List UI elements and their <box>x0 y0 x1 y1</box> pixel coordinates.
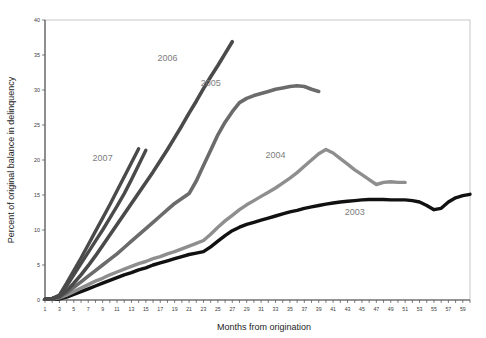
x-tick-label: 35 <box>287 306 293 312</box>
x-tick-label: 47 <box>373 306 379 312</box>
x-tick-label: 25 <box>215 306 221 312</box>
y-axis-title: Percent of original balance in delinquen… <box>6 76 16 243</box>
x-tick-label: 9 <box>101 306 104 312</box>
x-tick-label: 45 <box>359 306 365 312</box>
series-label-2004: 2004 <box>265 150 285 160</box>
x-tick-label: 21 <box>186 306 192 312</box>
series-label-2007: 2007 <box>93 153 113 163</box>
series-label-2006: 2006 <box>157 53 177 63</box>
x-tick-label: 5 <box>72 306 75 312</box>
x-tick-label: 33 <box>273 306 279 312</box>
x-tick-label: 39 <box>316 306 322 312</box>
y-tick-label: 15 <box>34 192 40 198</box>
x-tick-label: 11 <box>114 306 119 312</box>
series-label-2005: 2005 <box>201 78 221 88</box>
y-tick-label: 25 <box>34 122 40 128</box>
x-tick-label: 29 <box>244 306 250 312</box>
chart-canvas: 0510152025303540 13579111315171921232527… <box>0 0 486 338</box>
x-tick-label: 7 <box>87 306 90 312</box>
y-tick-label: 20 <box>34 157 40 163</box>
x-tick-label: 19 <box>172 306 178 312</box>
x-tick-label: 13 <box>129 306 135 312</box>
x-tick-label: 55 <box>431 306 437 312</box>
x-tick-label: 27 <box>229 306 235 312</box>
y-tick-label: 35 <box>34 52 40 58</box>
delinquency-chart: 0510152025303540 13579111315171921232527… <box>0 0 486 338</box>
x-tick-label: 23 <box>201 306 207 312</box>
x-tick-label: 31 <box>258 306 264 312</box>
y-tick-label: 40 <box>34 17 40 23</box>
x-tick-label: 57 <box>445 306 451 312</box>
x-tick-label: 53 <box>417 306 423 312</box>
series-label-2003: 2003 <box>345 207 365 217</box>
x-tick-label: 59 <box>460 306 466 312</box>
x-tick-label: 3 <box>58 306 61 312</box>
x-tick-label: 15 <box>143 306 149 312</box>
x-tick-label: 51 <box>402 306 408 312</box>
x-tick-label: 37 <box>301 306 307 312</box>
x-tick-label: 49 <box>388 306 394 312</box>
x-axis-title: Months from origination <box>217 322 311 332</box>
y-tick-label: 0 <box>37 297 40 303</box>
y-tick-label: 10 <box>34 227 40 233</box>
y-tick-label: 5 <box>37 262 40 268</box>
x-tick-label: 41 <box>330 306 336 312</box>
y-tick-label: 30 <box>34 87 40 93</box>
x-tick-label: 1 <box>44 306 47 312</box>
x-tick-label: 43 <box>345 306 351 312</box>
x-tick-label: 17 <box>157 306 163 312</box>
